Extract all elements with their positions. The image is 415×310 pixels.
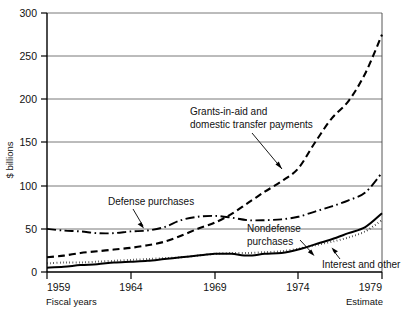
y-tick-label: 50 — [25, 223, 37, 235]
annotation-defense: Defense purchases — [108, 196, 194, 229]
annotation-grants-line2: domestic transfer payments — [190, 119, 313, 130]
annotation-grants-line1: Grants-in-aid and — [190, 106, 267, 117]
x-axis-title: Fiscal years — [46, 296, 97, 307]
y-tick-label: 300 — [19, 7, 37, 19]
chart-container: 300 250 200 150 100 50 0 $ billions 1959… — [0, 0, 415, 310]
x-tick-label: 1974 — [286, 281, 310, 293]
x-tick-marks — [47, 272, 382, 279]
y-tick-label: 0 — [31, 266, 37, 278]
y-tick-label: 150 — [19, 136, 37, 148]
x-tick-label: 1959 — [47, 281, 71, 293]
series-grants-in-aid — [47, 35, 382, 258]
line-chart: 300 250 200 150 100 50 0 $ billions 1959… — [0, 0, 415, 310]
estimate-note: Estimate — [346, 296, 383, 307]
annotation-nondefense-arrowhead — [308, 249, 315, 256]
y-tick-marks — [41, 13, 47, 272]
series-group — [47, 35, 382, 268]
x-tick-label: 1964 — [119, 281, 143, 293]
y-axis-title: $ billions — [4, 141, 15, 178]
annotation-interest: Interest and other — [322, 248, 401, 271]
y-tick-label: 100 — [19, 180, 37, 192]
series-interest-and-other — [47, 220, 382, 263]
annotation-interest-label: Interest and other — [322, 259, 401, 270]
annotation-nondefense-line1: Nondefense — [247, 223, 301, 234]
annotation-interest-arrowhead — [332, 248, 339, 254]
y-tick-label: 250 — [19, 50, 37, 62]
y-tick-label: 200 — [19, 93, 37, 105]
annotation-nondefense-line2: purchases — [247, 236, 293, 247]
series-defense-purchases — [47, 173, 382, 234]
x-tick-labels: 1959 1964 1969 1974 1979 — [47, 281, 382, 293]
x-tick-label: 1979 — [359, 281, 383, 293]
y-tick-labels: 300 250 200 150 100 50 0 — [19, 7, 37, 278]
annotation-grants: Grants-in-aid and domestic transfer paym… — [190, 106, 313, 169]
annotation-defense-label: Defense purchases — [108, 196, 194, 207]
x-tick-label: 1969 — [203, 281, 227, 293]
